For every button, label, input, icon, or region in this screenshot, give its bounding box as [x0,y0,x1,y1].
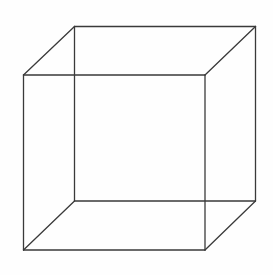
necker-cube-diagram [0,0,273,275]
diagram-canvas [0,0,273,275]
top-left-connector [24,27,75,76]
bottom-left-connector [24,201,75,250]
bottom-right-connector [205,201,256,250]
top-right-connector [205,27,256,76]
